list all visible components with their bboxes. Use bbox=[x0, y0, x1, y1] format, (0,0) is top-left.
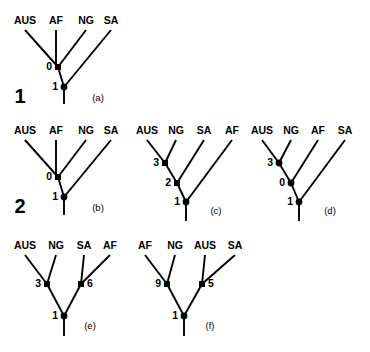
branch bbox=[202, 255, 235, 284]
node-marker bbox=[55, 174, 61, 180]
branch bbox=[47, 255, 56, 284]
branch bbox=[64, 140, 111, 197]
node-marker bbox=[61, 313, 68, 320]
node-label-1: 1 bbox=[52, 309, 58, 321]
node-marker bbox=[44, 281, 50, 287]
tree-b: AUSAFNGSA01(b) bbox=[14, 124, 119, 215]
node-label-9: 9 bbox=[155, 277, 161, 289]
taxon-label-aus: AUS bbox=[194, 239, 216, 251]
node-label-3: 3 bbox=[35, 277, 41, 289]
panel-label-d: (d) bbox=[324, 205, 336, 216]
panel-label-c: (c) bbox=[210, 205, 221, 216]
tree-diagram-canvas: 12AUSAFNGSA01(a)AUSAFNGSA01(b)AUSNGSAAF3… bbox=[0, 0, 370, 352]
taxon-label-af: AF bbox=[49, 124, 64, 136]
branch bbox=[25, 30, 58, 67]
taxon-label-ng: NG bbox=[48, 239, 64, 251]
tree-a: AUSAFNGSA01(a) bbox=[14, 14, 119, 104]
group-number-1: 1 bbox=[14, 85, 25, 107]
branch bbox=[299, 140, 345, 202]
node-marker bbox=[61, 84, 68, 91]
node-label-5: 5 bbox=[208, 277, 214, 289]
taxon-label-ng: NG bbox=[283, 124, 299, 136]
taxon-label-af: AF bbox=[49, 14, 64, 26]
phylogenetic-tree-figure: 12AUSAFNGSA01(a)AUSAFNGSA01(b)AUSNGSAAF3… bbox=[0, 0, 370, 352]
node-label-0: 0 bbox=[46, 60, 52, 72]
node-marker bbox=[183, 199, 190, 206]
branch bbox=[81, 255, 110, 284]
taxon-label-sa: SA bbox=[228, 239, 243, 251]
node-label-3: 3 bbox=[267, 156, 273, 168]
branch bbox=[167, 255, 175, 284]
taxon-label-af: AF bbox=[103, 239, 118, 251]
branch bbox=[81, 255, 84, 284]
branch bbox=[186, 140, 232, 202]
node-label-1: 1 bbox=[287, 195, 293, 207]
taxon-label-af: AF bbox=[225, 124, 240, 136]
branch bbox=[184, 284, 202, 316]
panel-label-e: (e) bbox=[84, 320, 96, 331]
taxon-label-ng: NG bbox=[78, 14, 94, 26]
node-label-6: 6 bbox=[87, 277, 93, 289]
node-marker bbox=[78, 281, 84, 287]
node-label-1: 1 bbox=[174, 195, 180, 207]
taxon-label-sa: SA bbox=[338, 124, 353, 136]
taxon-label-aus: AUS bbox=[14, 124, 36, 136]
taxon-label-aus: AUS bbox=[14, 14, 36, 26]
taxon-label-af: AF bbox=[138, 239, 153, 251]
branch bbox=[64, 284, 81, 316]
branch bbox=[291, 140, 318, 183]
taxon-label-sa: SA bbox=[104, 14, 119, 26]
taxon-label-aus: AUS bbox=[251, 124, 273, 136]
branch bbox=[58, 30, 86, 67]
node-marker bbox=[174, 180, 180, 186]
node-label-1: 1 bbox=[52, 80, 58, 92]
tree-d: AUSNGAFSA301(d) bbox=[251, 124, 353, 221]
taxon-label-aus: AUS bbox=[14, 239, 36, 251]
node-marker bbox=[276, 160, 283, 167]
node-marker bbox=[61, 194, 68, 201]
node-label-0: 0 bbox=[279, 176, 285, 188]
tree-f: AFNGAUSSA951(f) bbox=[138, 239, 243, 336]
tree-e: AUSNGSAAF361(e) bbox=[14, 239, 118, 336]
panel-label-b: (b) bbox=[92, 202, 104, 213]
taxon-label-ng: NG bbox=[167, 239, 183, 251]
panel-label-f: (f) bbox=[206, 320, 215, 331]
taxon-label-af: AF bbox=[311, 124, 326, 136]
taxon-label-ng: NG bbox=[78, 124, 94, 136]
node-marker bbox=[288, 180, 295, 187]
taxon-label-ng: NG bbox=[168, 124, 184, 136]
branch bbox=[177, 140, 204, 183]
node-label-1: 1 bbox=[172, 309, 178, 321]
group-number-2: 2 bbox=[14, 195, 25, 217]
taxon-label-aus: AUS bbox=[136, 124, 158, 136]
taxon-label-sa: SA bbox=[104, 124, 119, 136]
node-label-0: 0 bbox=[46, 170, 52, 182]
branch bbox=[58, 140, 86, 177]
node-label-1: 1 bbox=[52, 190, 58, 202]
branch bbox=[25, 140, 58, 177]
node-marker bbox=[162, 160, 168, 166]
node-marker bbox=[296, 199, 303, 206]
node-marker bbox=[164, 281, 170, 287]
node-label-3: 3 bbox=[153, 156, 159, 168]
tree-c: AUSNGSAAF321(c) bbox=[136, 124, 240, 221]
branch bbox=[202, 255, 205, 284]
node-marker bbox=[181, 313, 188, 320]
taxon-label-sa: SA bbox=[77, 239, 92, 251]
node-label-2: 2 bbox=[165, 176, 171, 188]
branch bbox=[165, 140, 176, 163]
node-marker bbox=[55, 64, 61, 70]
branch bbox=[279, 140, 291, 163]
node-marker bbox=[199, 281, 205, 287]
panel-label-a: (a) bbox=[92, 92, 104, 103]
branch bbox=[64, 30, 111, 87]
taxon-label-sa: SA bbox=[197, 124, 212, 136]
